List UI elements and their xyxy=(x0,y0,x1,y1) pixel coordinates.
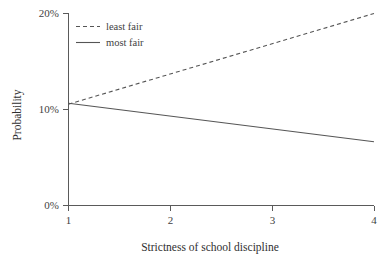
x-tick-label-4: 4 xyxy=(371,214,377,226)
legend-label-least-fair: least fair xyxy=(106,21,143,32)
y-axis-title: Probability xyxy=(11,89,24,140)
x-axis-title: Strictness of school discipline xyxy=(141,241,279,254)
series-line-most-fair xyxy=(69,103,375,142)
line-chart: 20% 10% 0% 1 2 3 4 Probability Strictnes… xyxy=(0,0,387,267)
legend-label-most-fair: most fair xyxy=(106,37,144,48)
y-tick-label-0: 0% xyxy=(44,199,59,211)
x-tick-label-1: 1 xyxy=(66,214,72,226)
y-tick-label-10: 10% xyxy=(39,103,59,115)
y-tick-label-20: 20% xyxy=(39,7,59,19)
x-tick-label-2: 2 xyxy=(168,214,174,226)
chart-legend: least fair most fair xyxy=(76,21,144,48)
x-tick-label-3: 3 xyxy=(270,214,276,226)
chart-figure: 20% 10% 0% 1 2 3 4 Probability Strictnes… xyxy=(0,0,387,267)
